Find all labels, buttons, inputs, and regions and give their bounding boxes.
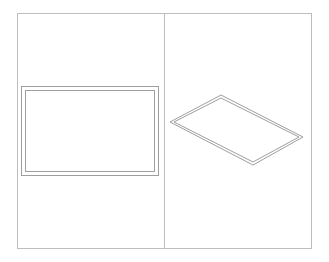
front-view-inner-rect [26,91,155,172]
front-view-panel [22,87,159,176]
isometric-view-panel [170,95,303,165]
diagram-canvas [0,0,329,262]
front-view-outer-rect [22,87,159,176]
isometric-inner-outline [174,98,299,162]
